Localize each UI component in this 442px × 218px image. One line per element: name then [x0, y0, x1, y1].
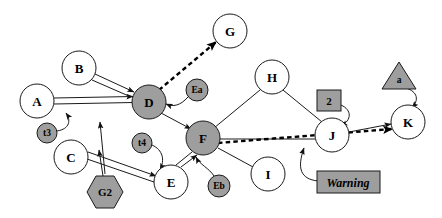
node-A[interactable]: A [20, 84, 54, 118]
node-J-label: J [329, 128, 336, 143]
edge-layer [54, 42, 416, 182]
edge-t4-to-e [152, 145, 163, 170]
graph-svg: A B C D E F G [0, 0, 442, 218]
edge-a-to-d [54, 97, 133, 105]
node-C[interactable]: C [54, 140, 88, 174]
node-t4[interactable]: t4 [132, 133, 152, 153]
node-H-label: H [267, 70, 277, 85]
node-E-label: E [167, 175, 176, 190]
node-Eb-label: Eb [213, 181, 225, 191]
node-H[interactable]: H [255, 60, 289, 94]
node-F-label: F [199, 131, 207, 146]
edge-e-to-f [176, 152, 197, 167]
node-B-label: B [75, 61, 84, 76]
diagram-canvas: A B C D E F G [0, 0, 442, 218]
node-Ea[interactable]: Ea [186, 79, 208, 101]
node-Ea-label: Ea [191, 85, 202, 95]
node-box-2-label: 2 [326, 95, 332, 107]
edge-ea-to-d [166, 97, 188, 106]
node-warning-box[interactable]: Warning [317, 171, 380, 193]
node-F[interactable]: F [186, 121, 220, 155]
node-G2[interactable]: G2 [87, 176, 123, 208]
node-t3[interactable]: t3 [37, 123, 57, 143]
edge-b-to-d [92, 74, 134, 97]
node-D-label: D [144, 95, 153, 110]
edge-h-to-j [283, 90, 322, 122]
node-K-label: K [403, 115, 414, 130]
node-A-label: A [32, 94, 42, 109]
edge-eb-to-f [196, 157, 214, 176]
node-I-label: I [265, 167, 270, 182]
edge-j-to-k [349, 124, 391, 132]
node-t3-label: t3 [43, 128, 51, 138]
edge-warning-to-j [301, 148, 318, 181]
edge-d-to-g [159, 42, 216, 90]
node-C-label: C [66, 150, 75, 165]
node-I[interactable]: I [251, 157, 285, 191]
node-a-triangle[interactable]: a [382, 62, 416, 89]
node-B[interactable]: B [62, 51, 96, 85]
node-G[interactable]: G [213, 14, 247, 48]
node-box-2[interactable]: 2 [317, 90, 341, 111]
edge-d-to-f [161, 113, 191, 129]
node-t4-label: t4 [138, 138, 146, 148]
node-warning-label: Warning [326, 176, 369, 190]
node-G-label: G [225, 24, 235, 39]
node-a-label: a [397, 75, 402, 85]
node-J[interactable]: J [315, 118, 349, 152]
edge-t3-to-a [57, 113, 69, 131]
node-E[interactable]: E [154, 165, 188, 199]
edge-g2-to-d [100, 122, 105, 174]
edge-f-to-i [218, 148, 253, 167]
node-Eb[interactable]: Eb [208, 175, 230, 197]
node-D[interactable]: D [132, 85, 166, 119]
edge-h-to-f [214, 90, 260, 128]
node-K[interactable]: K [391, 105, 425, 139]
node-G2-label: G2 [98, 186, 113, 198]
edge-f-to-k [218, 129, 392, 143]
